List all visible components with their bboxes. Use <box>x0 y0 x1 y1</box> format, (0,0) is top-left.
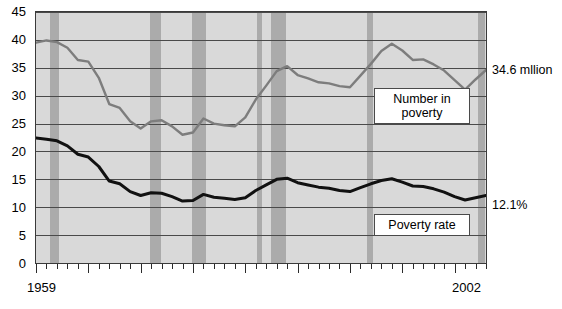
x-tick-minor <box>57 264 58 269</box>
x-tick-minor <box>444 264 445 269</box>
x-tick-major <box>402 264 403 273</box>
x-tick-minor <box>67 264 68 269</box>
x-tick-minor <box>465 264 466 269</box>
x-tick-minor <box>329 264 330 269</box>
y-axis-tick-0: 0 <box>0 257 26 270</box>
x-tick-minor <box>476 264 477 269</box>
x-tick-minor <box>319 264 320 269</box>
y-axis-tick-30: 30 <box>0 89 26 102</box>
x-tick-minor <box>392 264 393 269</box>
x-tick-minor <box>235 264 236 269</box>
x-tick-minor <box>183 264 184 269</box>
y-axis-tick-25: 25 <box>0 117 26 130</box>
number-in-poverty-endvalue: 34.6 mllion <box>492 63 552 77</box>
number-in-poverty-callout: Number in poverty <box>374 88 470 124</box>
x-tick-major <box>245 264 246 273</box>
x-tick-minor <box>99 264 100 269</box>
x-tick-major <box>141 264 142 273</box>
x-tick-minor <box>256 264 257 269</box>
x-tick-minor <box>423 264 424 269</box>
x-tick-minor <box>214 264 215 269</box>
y-axis-tick-10: 10 <box>0 201 26 214</box>
x-tick-minor <box>371 264 372 269</box>
series-line-poverty-rate <box>36 138 486 201</box>
x-tick-minor <box>78 264 79 269</box>
x-tick-minor <box>339 264 340 269</box>
x-tick-minor <box>162 264 163 269</box>
x-tick-minor <box>308 264 309 269</box>
x-axis-tick-start: 1959 <box>27 281 56 294</box>
x-tick-major <box>455 264 456 273</box>
x-tick-minor <box>130 264 131 269</box>
x-tick-minor <box>486 264 487 269</box>
x-tick-minor <box>287 264 288 269</box>
x-tick-major <box>350 264 351 273</box>
poverty-chart: 45 40 35 30 25 20 15 10 5 0 1959 2002 Nu… <box>0 0 562 309</box>
x-tick-major <box>88 264 89 273</box>
x-tick-minor <box>109 264 110 269</box>
y-axis-tick-40: 40 <box>0 33 26 46</box>
poverty-rate-callout: Poverty rate <box>374 214 470 236</box>
x-tick-minor <box>172 264 173 269</box>
y-axis-tick-45: 45 <box>0 5 26 18</box>
y-axis-tick-35: 35 <box>0 61 26 74</box>
y-axis-tick-20: 20 <box>0 145 26 158</box>
x-tick-minor <box>46 264 47 269</box>
y-axis-tick-15: 15 <box>0 173 26 186</box>
poverty-rate-endvalue: 12.1% <box>492 198 527 212</box>
x-tick-minor <box>360 264 361 269</box>
x-tick-minor <box>413 264 414 269</box>
x-tick-major <box>36 264 37 273</box>
x-tick-minor <box>224 264 225 269</box>
x-tick-minor <box>381 264 382 269</box>
x-tick-major <box>193 264 194 273</box>
x-tick-minor <box>434 264 435 269</box>
x-tick-minor <box>203 264 204 269</box>
x-tick-minor <box>266 264 267 269</box>
y-axis-tick-5: 5 <box>0 229 26 242</box>
x-tick-minor <box>151 264 152 269</box>
x-axis-tick-end: 2002 <box>452 281 481 294</box>
x-tick-minor <box>120 264 121 269</box>
x-tick-major <box>298 264 299 273</box>
x-tick-minor <box>277 264 278 269</box>
